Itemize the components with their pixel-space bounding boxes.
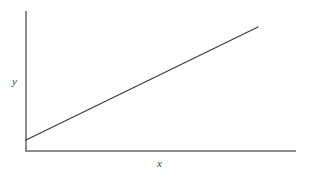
- y-axis-label: y: [12, 76, 17, 87]
- data-line-series-0: [26, 27, 258, 140]
- plot-area: [0, 0, 311, 179]
- figure-canvas: y x: [0, 0, 311, 179]
- x-axis-label: x: [157, 158, 162, 169]
